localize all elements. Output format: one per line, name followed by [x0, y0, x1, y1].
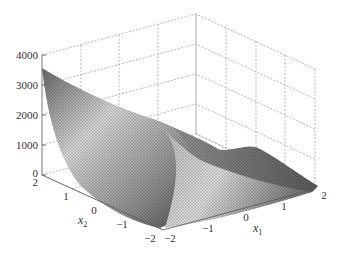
- x1-tick-1: 1: [281, 200, 287, 212]
- surface-chart: 4000 3000 2000 1000 0 2 1 0 −1 −2 −2 −1 …: [0, 0, 338, 255]
- x1-axis-label: x1: [252, 221, 262, 237]
- z-tick-4000: 4000: [16, 49, 39, 61]
- z-tick-1000: 1000: [16, 139, 39, 151]
- z-tick-2000: 2000: [16, 109, 39, 121]
- z-tick-3000: 3000: [16, 79, 39, 91]
- x1-tick-neg1: −1: [202, 222, 214, 234]
- x1-tick-2: 2: [321, 189, 327, 201]
- x2-tick-1: 1: [63, 190, 69, 202]
- x1-tick-0: 0: [243, 211, 249, 223]
- x2-tick-2: 2: [33, 176, 39, 188]
- x2-axis-label: x2: [77, 213, 87, 229]
- x2-tick-neg1: −1: [116, 218, 128, 230]
- x2-tick-neg2: −2: [144, 232, 156, 244]
- x2-tick-0: 0: [91, 204, 97, 216]
- z-tick-labels: 4000 3000 2000 1000 0: [16, 49, 39, 179]
- surface: [42, 68, 318, 228]
- x1-tick-neg2: −2: [164, 232, 176, 244]
